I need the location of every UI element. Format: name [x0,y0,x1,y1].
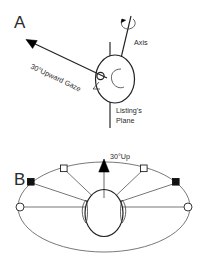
up-label: 30°Up [110,152,130,161]
listings-plane-label-line2: Plane [116,116,134,125]
marker-open-circle-right [184,203,192,211]
panel-a-letter: A [14,13,26,32]
listings-plane-label-line1: Listing's [116,106,142,115]
marker-open-square-right [141,165,148,172]
panel-b-letter: B [14,170,25,189]
figure-canvas: A 30°Upward Gaze Axis [0,0,208,259]
figure-root: A 30°Upward Gaze Axis [0,0,208,259]
marker-filled-square-left [28,179,35,186]
axis-label: Axis [134,38,148,47]
marker-filled-square-right [173,179,180,186]
marker-open-square-left [61,165,68,172]
marker-open-circle-left [16,203,24,211]
